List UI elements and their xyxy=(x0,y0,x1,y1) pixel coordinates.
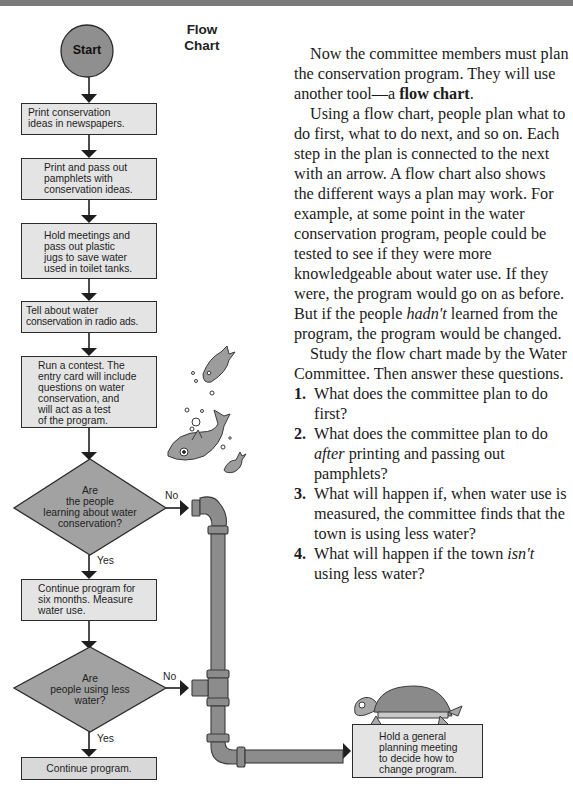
box-line: conservation ideas. xyxy=(44,184,150,195)
step-print-pamphlets: Print and pass out pamphlets with conser… xyxy=(21,158,157,200)
decision-line: conservation? xyxy=(24,518,156,529)
question-item: 2.What does the committee plan to do aft… xyxy=(294,424,569,484)
box-line: Hold meetings and xyxy=(44,230,150,241)
step-print-newspapers: Print conservation ideas in newspapers. xyxy=(21,103,157,135)
flowchart-title: Flow Chart xyxy=(172,22,232,54)
box-line: Print and pass out xyxy=(44,162,150,173)
decision-learning-no-label: No xyxy=(165,490,178,501)
decision-learning-text: Are the people learning about water cons… xyxy=(24,485,156,529)
box-line: Hold a general xyxy=(379,731,476,742)
box-line: entry card will include xyxy=(38,371,150,382)
box-line: conservation, and xyxy=(38,393,150,404)
turtle-illustration xyxy=(355,686,462,726)
decision-line: the people xyxy=(24,496,156,507)
question-number: 3. xyxy=(294,484,306,504)
question-item: 3.What will happen if, when water use is… xyxy=(294,484,569,544)
decision-water-use-text: Are people using less water? xyxy=(24,673,156,706)
box-line: jugs to save water xyxy=(44,252,150,263)
paragraph-explanation: Using a flow chart, people plan what to … xyxy=(294,104,569,344)
decision-water-use-yes-label: Yes xyxy=(97,733,114,744)
start-label: Start xyxy=(61,43,113,57)
box-line: questions on water xyxy=(38,382,150,393)
box-line: Continue program. xyxy=(28,763,150,774)
decision-line: water? xyxy=(24,695,156,706)
italic-term: after xyxy=(314,445,345,463)
box-line: of the program. xyxy=(38,415,150,426)
box-line: Print conservation xyxy=(28,107,150,118)
box-line: six months. Measure xyxy=(38,594,150,605)
box-line: to decide how to xyxy=(379,753,476,764)
box-line: conservation in radio ads. xyxy=(26,316,154,327)
body-text: Now the committee members must plan the … xyxy=(294,44,569,584)
decision-line: people using less xyxy=(24,684,156,695)
text-run: . xyxy=(470,85,474,103)
question-list: 1.What does the committee plan to do fir… xyxy=(294,384,569,584)
question-item: 4.What will happen if the town isn't usi… xyxy=(294,544,569,584)
question-number: 4. xyxy=(294,544,306,564)
paragraph-intro: Now the committee members must plan the … xyxy=(294,44,569,104)
step-continue-program: Continue program. xyxy=(21,757,157,780)
decision-water-use-no-label: No xyxy=(163,671,176,682)
step-run-contest: Run a contest. The entry card will inclu… xyxy=(21,356,157,428)
step-general-planning-meeting: Hold a general planning meeting to decid… xyxy=(352,724,483,778)
text-run: Using a flow chart, people plan what to … xyxy=(294,105,565,323)
box-line: water use. xyxy=(38,605,150,616)
box-line: Run a contest. The xyxy=(38,360,150,371)
paragraph-instructions: Study the flow chart made by the Water C… xyxy=(294,344,569,384)
question-text: using less water? xyxy=(314,565,425,583)
question-number: 2. xyxy=(294,424,306,444)
decision-learning-yes-label: Yes xyxy=(97,555,114,566)
question-number: 1. xyxy=(294,384,306,404)
question-text: What does the committee plan to do first… xyxy=(314,385,548,423)
question-item: 1.What does the committee plan to do fir… xyxy=(294,384,569,424)
bold-term: flow chart xyxy=(399,85,470,103)
step-radio-ads: Tell about water conservation in radio a… xyxy=(21,301,157,333)
box-line: will act as a test xyxy=(38,404,150,415)
question-text: What will happen if, when water use is m… xyxy=(314,485,567,543)
question-text: What does the committee plan to do xyxy=(314,425,548,443)
question-text: What will happen if the town xyxy=(314,545,507,563)
fish-illustration xyxy=(168,346,246,473)
box-line: pass out plastic xyxy=(44,241,150,252)
italic-term: isn't xyxy=(507,545,534,563)
step-continue-six-months: Continue program for six months. Measure… xyxy=(21,579,157,621)
box-line: Tell about water xyxy=(26,305,154,316)
italic-term: hadn't xyxy=(406,305,446,323)
box-line: Continue program for xyxy=(38,583,150,594)
title-line: Flow xyxy=(172,22,232,38)
box-line: planning meeting xyxy=(379,742,476,753)
step-hold-meetings: Hold meetings and pass out plastic jugs … xyxy=(21,223,157,279)
decision-line: Are xyxy=(24,485,156,496)
decision-line: learning about water xyxy=(24,507,156,518)
box-line: used in toilet tanks. xyxy=(44,263,150,274)
title-line: Chart xyxy=(172,38,232,54)
decision-line: Are xyxy=(24,673,156,684)
box-line: change program. xyxy=(379,764,476,775)
box-line: ideas in newspapers. xyxy=(28,118,150,129)
box-line: pamphlets with xyxy=(44,173,150,184)
